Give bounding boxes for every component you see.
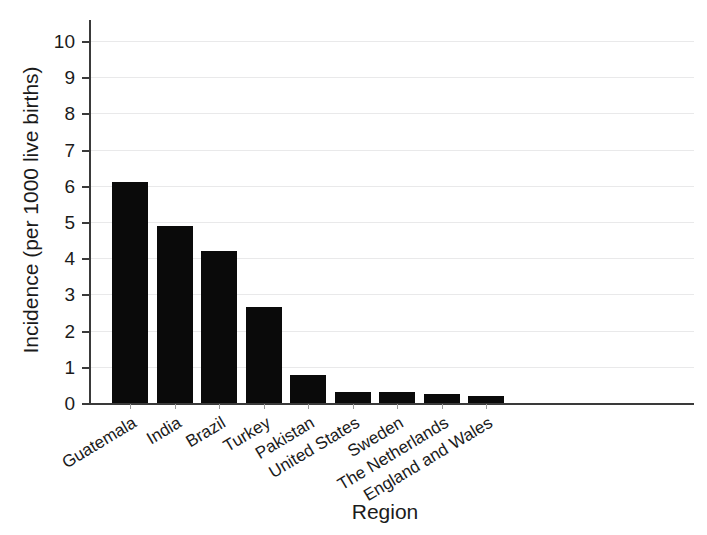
y-tick-mark-4	[82, 258, 89, 260]
y-tick-mark-5	[82, 222, 89, 224]
y-tick-mark-1	[82, 367, 89, 369]
y-tick-label-4: 4	[45, 249, 75, 268]
y-tick-mark-3	[82, 294, 89, 296]
x-tick-mark-1	[175, 404, 176, 409]
x-tick-mark-7	[442, 404, 443, 409]
y-tick-label-0: 0	[45, 394, 75, 413]
y-tick-label-3: 3	[45, 285, 75, 304]
y-tick-mark-0	[82, 403, 89, 405]
gridline-y-5	[89, 222, 694, 223]
y-tick-mark-2	[82, 331, 89, 333]
x-axis-title: Region	[150, 500, 620, 524]
y-tick-label-10: 10	[45, 32, 75, 51]
y-tick-label-1: 1	[45, 357, 75, 376]
bar-1	[157, 226, 193, 403]
y-axis-title: Incidence (per 1000 live births)	[14, 0, 48, 420]
bar-chart-figure: Incidence (per 1000 live births) 0123456…	[0, 0, 707, 535]
x-tick-mark-3	[264, 404, 265, 409]
y-tick-mark-6	[82, 186, 89, 188]
y-tick-mark-8	[82, 113, 89, 115]
y-tick-mark-7	[82, 150, 89, 152]
x-tick-mark-8	[486, 404, 487, 409]
bar-8	[468, 396, 504, 403]
x-tick-mark-6	[397, 404, 398, 409]
y-tick-mark-10	[82, 41, 89, 43]
y-tick-label-7: 7	[45, 140, 75, 159]
y-tick-label-6: 6	[45, 176, 75, 195]
x-tick-mark-2	[219, 404, 220, 409]
x-tick-mark-5	[353, 404, 354, 409]
y-tick-label-8: 8	[45, 104, 75, 123]
gridline-y-10	[89, 41, 694, 42]
x-tick-mark-4	[308, 404, 309, 409]
bar-0	[112, 182, 148, 403]
bar-3	[246, 307, 282, 403]
gridline-y-8	[89, 113, 694, 114]
y-tick-label-9: 9	[45, 68, 75, 87]
bar-6	[379, 392, 415, 403]
y-tick-label-2: 2	[45, 321, 75, 340]
gridline-y-9	[89, 77, 694, 78]
gridline-y-7	[89, 150, 694, 151]
bar-4	[290, 375, 326, 403]
x-tick-mark-0	[130, 404, 131, 409]
y-tick-label-5: 5	[45, 213, 75, 232]
gridline-y-6	[89, 186, 694, 187]
y-axis-line	[89, 20, 91, 403]
bar-7	[424, 394, 460, 403]
x-axis-line	[89, 403, 694, 405]
bar-2	[201, 251, 237, 403]
bar-5	[335, 392, 371, 403]
y-tick-mark-9	[82, 77, 89, 79]
